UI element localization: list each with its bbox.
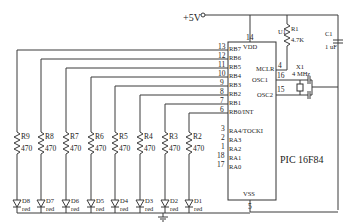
svg-text:red: red: [120, 205, 129, 212]
svg-text:D8: D8: [22, 197, 30, 204]
osc1-label: OSC1: [252, 76, 268, 83]
svg-text:red: red: [22, 205, 31, 212]
svg-text:RB3: RB3: [229, 81, 241, 88]
r1-value: 4.7K: [291, 36, 304, 43]
mclr-label: MCLR: [256, 65, 275, 72]
svg-text:RB7: RB7: [229, 45, 242, 52]
led-icon: [87, 200, 95, 213]
svg-text:470: 470: [21, 144, 33, 153]
c1-value: 1 uF: [325, 43, 337, 50]
osc-capacitors-icon: [300, 76, 312, 99]
svg-text:R7: R7: [70, 132, 79, 141]
c1-name: C1: [325, 30, 333, 37]
svg-text:RA2: RA2: [229, 145, 241, 152]
svg-text:R5: R5: [119, 132, 128, 141]
porta-pins: 3RA4/TOCKI 2RA3 1RA2 18RA1 17RA0: [217, 124, 263, 170]
column-2: R8 470 D7 red: [37, 132, 57, 213]
column-7: R3 470 D2 red: [161, 132, 181, 213]
svg-text:RB1: RB1: [229, 99, 241, 106]
svg-text:D4: D4: [120, 197, 129, 204]
svg-text:red: red: [170, 205, 179, 212]
osc1-pin: 16: [277, 71, 285, 80]
svg-text:D2: D2: [170, 197, 178, 204]
r1-name: R1: [291, 25, 299, 32]
svg-text:R6: R6: [95, 132, 104, 141]
mclr-pin: 4: [278, 61, 282, 70]
svg-text:red: red: [145, 205, 154, 212]
svg-text:R2: R2: [193, 132, 202, 141]
svg-text:red: red: [46, 205, 55, 212]
svg-text:RB0/INT: RB0/INT: [229, 108, 254, 115]
led-columns: R9 470 D8 red R8 470 D7 red R7 470 D6 re…: [13, 132, 205, 213]
vdd-label: VDD: [243, 43, 257, 50]
svg-text:3: 3: [221, 124, 225, 133]
svg-text:RB6: RB6: [229, 54, 242, 61]
svg-text:red: red: [96, 205, 105, 212]
svg-text:RB2: RB2: [229, 90, 241, 97]
column-1: R9 470 D8 red: [13, 132, 33, 213]
ic-name: PIC 16F84: [280, 154, 324, 165]
svg-text:1: 1: [221, 142, 225, 151]
svg-text:red: red: [194, 205, 203, 212]
column-5: R5 470 D4 red: [111, 132, 131, 213]
svg-text:D5: D5: [96, 197, 104, 204]
led-icon: [111, 200, 119, 213]
svg-text:R9: R9: [21, 132, 30, 141]
svg-text:RB4: RB4: [229, 72, 242, 79]
column-4: R6 470 D5 red: [87, 132, 107, 213]
led-icon: [37, 200, 45, 213]
svg-text:R4: R4: [144, 132, 153, 141]
svg-text:RA0: RA0: [229, 163, 241, 170]
power-terminal-icon: [201, 13, 205, 17]
svg-text:D3: D3: [145, 197, 153, 204]
svg-text:470: 470: [119, 144, 131, 153]
portb-wires: [17, 50, 228, 132]
led-icon: [136, 200, 144, 213]
svg-text:2: 2: [221, 133, 225, 142]
osc2-label: OSC2: [257, 91, 273, 98]
svg-text:470: 470: [45, 144, 57, 153]
x1-value: 4 MHz: [292, 70, 310, 77]
power-label: +5V: [183, 12, 202, 23]
svg-text:470: 470: [70, 144, 82, 153]
crystal-icon: [297, 84, 303, 91]
schematic: +5V 14 VDD VSS 5 PIC 16F84 U1 MCLR 4 R1 …: [0, 0, 345, 222]
svg-text:R8: R8: [45, 132, 54, 141]
svg-text:470: 470: [144, 144, 156, 153]
svg-text:470: 470: [169, 144, 181, 153]
svg-text:RA3: RA3: [229, 136, 241, 143]
svg-text:D7: D7: [46, 197, 55, 204]
led-icon: [185, 200, 193, 213]
svg-text:470: 470: [193, 144, 205, 153]
vss-label: VSS: [243, 190, 255, 197]
svg-text:RB5: RB5: [229, 63, 241, 70]
ground-icon: [158, 213, 168, 221]
svg-text:red: red: [71, 205, 80, 212]
svg-text:D6: D6: [71, 197, 80, 204]
svg-text:RA1: RA1: [229, 154, 241, 161]
column-8: R2 470 D1 red: [185, 132, 205, 213]
x1-name: X1: [296, 63, 304, 70]
vss-wire: [250, 200, 338, 212]
led-icon: [62, 200, 70, 213]
vdd-pin: 14: [246, 33, 254, 42]
led-icon: [161, 200, 169, 213]
svg-text:D1: D1: [194, 197, 202, 204]
svg-text:18: 18: [217, 151, 225, 160]
svg-text:470: 470: [95, 144, 107, 153]
column-6: R4 470 D3 red: [136, 132, 156, 213]
svg-text:R3: R3: [169, 132, 178, 141]
led-icon: [13, 200, 21, 213]
column-3: R7 470 D6 red: [62, 132, 82, 213]
osc2-pin: 15: [277, 85, 285, 94]
svg-text:17: 17: [217, 160, 225, 169]
svg-text:RA4/TOCKI: RA4/TOCKI: [229, 127, 263, 134]
